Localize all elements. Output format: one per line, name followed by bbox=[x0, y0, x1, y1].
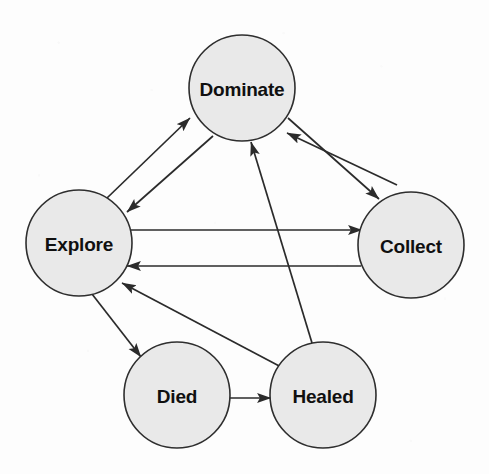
node-healed[interactable]: Healed bbox=[270, 342, 376, 448]
diagram-canvas: DominateExploreCollectDiedHealed bbox=[0, 0, 489, 474]
edge-explore-to-dominate bbox=[107, 118, 190, 198]
state-transition-graph: DominateExploreCollectDiedHealed bbox=[0, 0, 489, 474]
edge-dominate-to-collect bbox=[288, 118, 379, 199]
edge-healed-to-dominate bbox=[251, 142, 312, 343]
edge-collect-to-dominate bbox=[287, 133, 397, 185]
node-label-died: Died bbox=[157, 386, 197, 407]
edge-dominate-to-explore bbox=[127, 136, 213, 212]
nodes-layer: DominateExploreCollectDiedHealed bbox=[26, 35, 464, 448]
node-died[interactable]: Died bbox=[124, 342, 230, 448]
node-label-healed: Healed bbox=[292, 386, 353, 407]
node-label-dominate: Dominate bbox=[200, 79, 285, 100]
node-dominate[interactable]: Dominate bbox=[189, 35, 295, 141]
node-label-collect: Collect bbox=[380, 236, 443, 257]
node-collect[interactable]: Collect bbox=[358, 192, 464, 298]
node-explore[interactable]: Explore bbox=[26, 190, 132, 296]
edge-explore-to-died bbox=[92, 294, 141, 357]
node-label-explore: Explore bbox=[45, 234, 113, 255]
